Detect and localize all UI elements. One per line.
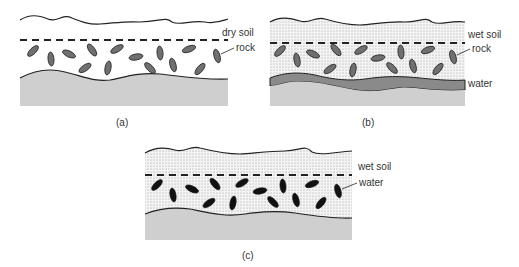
water-label-b: water [467,78,493,89]
soil-diagram: dry soil rock (a) wet soil rock [0,0,519,267]
soil-label-b: wet soil [467,29,501,40]
panel-b: wet soil rock water (b) [270,18,501,128]
soil-label-a: dry soil [222,27,254,38]
pointer-label-a: rock [236,42,256,53]
caption-b: (b) [362,117,374,128]
caption-c: (c) [242,250,254,261]
panel-c: wet soil water (c) [145,147,391,261]
soil-label-c: wet soil [357,161,391,172]
pointer-label-c: water [358,177,384,188]
caption-a: (a) [116,117,128,128]
pointer-label-b: rock [472,43,492,54]
panel-a: dry soil rock (a) [20,16,256,128]
